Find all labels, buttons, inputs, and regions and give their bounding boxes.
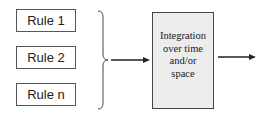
- integration-line-4: space: [160, 68, 206, 81]
- integration-process-box: Integration over time and/or space: [152, 12, 214, 109]
- integration-line-1: Integration: [160, 30, 206, 43]
- integration-label: Integration over time and/or space: [160, 30, 206, 80]
- arrow-output-icon: [218, 54, 256, 60]
- curly-brace-icon: [98, 11, 108, 109]
- arrow-to-process-icon: [111, 57, 150, 63]
- integration-line-3: and/or: [160, 55, 206, 68]
- integration-line-2: over time: [160, 43, 206, 56]
- connectors-layer: [0, 0, 268, 116]
